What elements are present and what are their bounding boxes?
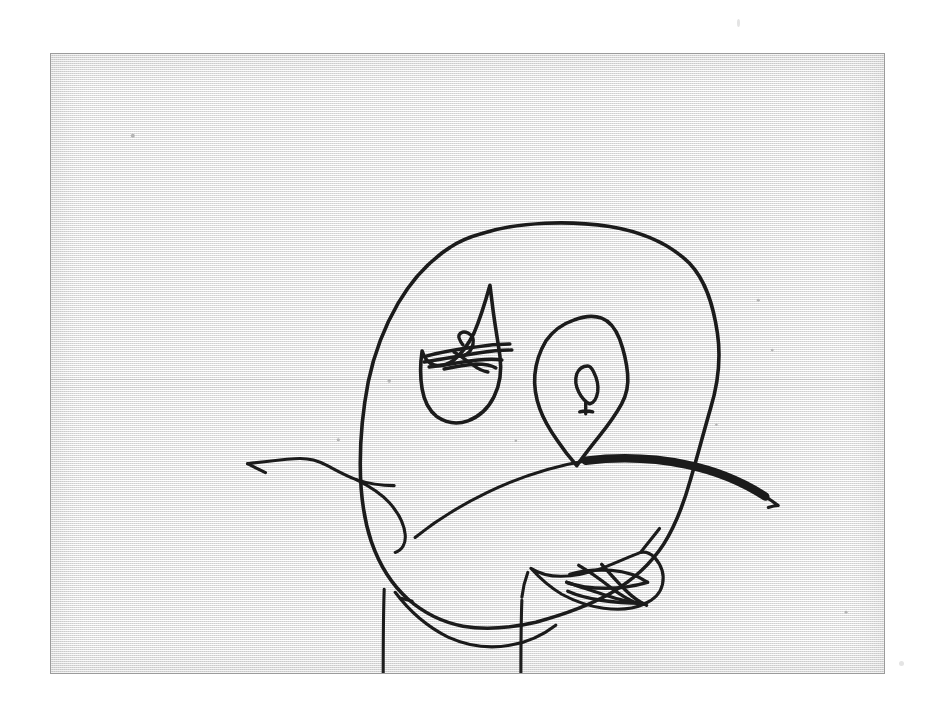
page-root: Head outlineLeft eye outline (teardrop)L…	[0, 0, 938, 714]
mouth-frown-right-tip: Mouth right tip	[765, 497, 778, 508]
left-leg: Left leg	[383, 589, 384, 673]
scanned-sheet: Head outlineLeft eye outline (teardrop)L…	[50, 53, 885, 674]
right-eye-pupil: Right eye pupil	[576, 366, 598, 414]
right-eye-outline: Right eye outline (diamond)	[535, 316, 628, 465]
right-leg: Right leg	[521, 600, 522, 673]
ink-strokes: Head outlineLeft eye outline (teardrop)L…	[248, 223, 779, 673]
paper-speck	[337, 438, 340, 441]
paper-specks	[131, 134, 848, 614]
mouth-frown-left-tail: Mouth left tail (thin)	[415, 461, 586, 538]
page-speck	[899, 661, 904, 666]
drawing-canvas: Head outlineLeft eye outline (teardrop)L…	[51, 54, 884, 673]
left-arm: Left arm line	[248, 458, 395, 485]
paper-speck	[131, 134, 135, 138]
paper-speck	[515, 439, 518, 442]
page-speck	[737, 19, 740, 27]
chin-jaw: Chin / jaw curve	[395, 592, 556, 647]
head-outline: Head outline	[360, 223, 719, 628]
paper-speck	[387, 379, 391, 383]
paper-speck	[845, 611, 848, 614]
left-arm-tip: Left arm tip flick	[248, 464, 266, 473]
neck-right-line: Right shoulder / neck line	[522, 572, 528, 597]
paper-speck	[771, 349, 774, 352]
paper-speck	[715, 424, 718, 427]
mouth-frown: Mouth (downturned frown)	[586, 458, 766, 496]
hand-wrist: Hand wrist line	[641, 528, 660, 552]
paper-speck	[757, 299, 760, 302]
